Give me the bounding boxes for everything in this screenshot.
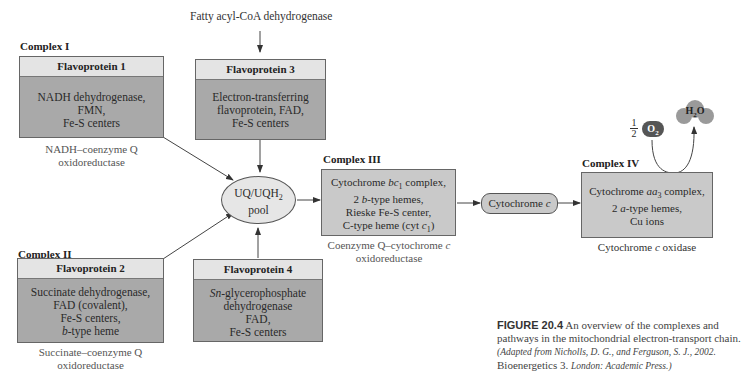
figure-citation: (Adapted from Nicholls, D. G., and Fergu… xyxy=(497,347,716,357)
fraction-den: 2 xyxy=(630,129,638,139)
cytochrome-c: Cytochrome c xyxy=(481,193,558,214)
complex2-box: Flavoprotein 2 Succinate dehydrogenase, … xyxy=(17,258,164,343)
complex4-line: Cu ions xyxy=(582,215,712,228)
flavoprotein4-header: Flavoprotein 4 xyxy=(194,260,322,280)
fp4-line: Fe-S centers xyxy=(194,326,322,339)
complex3-body: Cytochrome bc1 complex, 2 b-type hemes, … xyxy=(322,170,455,236)
arrow-c1-to-pool xyxy=(163,137,233,180)
complex1-line: FMN, xyxy=(20,104,163,117)
oxygen-molecule-icon: O2 xyxy=(642,121,664,137)
complex2-body: Succinate dehydrogenase, FAD (covalent),… xyxy=(18,279,163,338)
fp4-line: Sn-glycerophosphate xyxy=(194,287,322,300)
figure-publisher: London: Academic Press.) xyxy=(571,361,672,371)
complex3-caption: Coenzyme Q–cytochrome c oxidoreductase xyxy=(313,239,465,265)
complex1-caption: NADH–coenzyme Q oxidoreductase xyxy=(19,143,164,169)
flavoprotein2-header: Flavoprotein 2 xyxy=(18,259,163,279)
half-fraction: 1 2 xyxy=(630,118,638,139)
ubiquinone-pool: UQ/UQH2 pool xyxy=(221,176,296,224)
complex4-body: Cytochrome aa3 complex, 2 a-type hemes, … xyxy=(582,173,712,228)
flavoprotein3-box: Flavoprotein 3 Electron-transferring fla… xyxy=(195,59,326,140)
complex3-line: Rieske Fe-S center, xyxy=(322,206,455,219)
figure-caption: FIGURE 20.4 An overview of the complexes… xyxy=(497,319,742,373)
pool-subscript: 2 xyxy=(279,193,283,202)
fp4-line: FAD, xyxy=(194,313,322,326)
flavoprotein3-header: Flavoprotein 3 xyxy=(196,60,325,80)
line-rest: -type heme xyxy=(68,325,119,337)
flavoprotein3-body: Electron-transferring flavoprotein, FAD,… xyxy=(196,80,325,130)
complex4-caption: Cytochrome c oxidase xyxy=(581,241,713,254)
flavoprotein4-box: Flavoprotein 4 Sn-glycerophosphate dehyd… xyxy=(193,259,323,342)
complex2-line: Fe-S centers, xyxy=(18,312,163,325)
caption-line: oxidoreductase xyxy=(313,252,465,265)
complex4-label: Complex IV xyxy=(582,157,639,169)
complex4-line: 2 a-type hemes, xyxy=(582,202,712,215)
pool-text: UQ/UQH xyxy=(234,187,279,199)
fatty-acyl-coa-label: Fatty acyl-CoA dehydrogenase xyxy=(190,10,332,22)
complex3-line: 2 b-type hemes, xyxy=(322,193,455,206)
pool-line1: UQ/UQH2 xyxy=(222,187,295,204)
caption-line: oxidoreductase xyxy=(19,156,164,169)
caption-line: NADH–coenzyme Q xyxy=(19,143,164,156)
figure-book: Bioenergetics 3. xyxy=(497,359,568,371)
line-rest: -glycerophosphate xyxy=(221,287,306,299)
flavoprotein1-header: Flavoprotein 1 xyxy=(20,57,163,77)
complex1-body: NADH dehydrogenase, FMN, Fe-S centers xyxy=(20,77,163,130)
caption-line: oxidoreductase xyxy=(17,359,164,372)
figure-number: FIGURE 20.4 xyxy=(497,319,563,331)
complex3-line: Cytochrome bc1 complex, xyxy=(322,176,455,193)
water-molecule-icon: H2O xyxy=(676,100,714,124)
complex4-line: Cytochrome aa3 complex, xyxy=(582,185,712,202)
complex2-line: FAD (covalent), xyxy=(18,299,163,312)
complex3-label: Complex III xyxy=(323,153,381,165)
complex1-line: NADH dehydrogenase, xyxy=(20,91,163,104)
complex2-line: b-type heme xyxy=(18,325,163,338)
italic-sn: Sn xyxy=(210,287,222,299)
complex1-label: Complex I xyxy=(20,40,69,52)
complex3-line: C-type heme (cyt c1) xyxy=(322,219,455,236)
caption-line: Coenzyme Q–cytochrome c xyxy=(313,239,465,252)
caption-line: Succinate–coenzyme Q xyxy=(17,346,164,359)
fp3-line: Electron-transferring xyxy=(196,91,325,104)
complex1-box: Flavoprotein 1 NADH dehydrogenase, FMN, … xyxy=(19,56,164,138)
pool-line2: pool xyxy=(222,204,295,217)
arrow-c2-to-pool xyxy=(163,213,233,259)
flavoprotein4-body: Sn-glycerophosphate dehydrogenase FAD, F… xyxy=(194,280,322,339)
complex2-line: Succinate dehydrogenase, xyxy=(18,286,163,299)
fp4-line: dehydrogenase xyxy=(194,300,322,313)
complex1-line: Fe-S centers xyxy=(20,117,163,130)
fp3-line: flavoprotein, FAD, xyxy=(196,104,325,117)
fp3-line: Fe-S centers xyxy=(196,117,325,130)
complex3-box: Cytochrome bc1 complex, 2 b-type hemes, … xyxy=(321,169,456,236)
complex4-box: Cytochrome aa3 complex, 2 a-type hemes, … xyxy=(581,172,713,238)
complex2-caption: Succinate–coenzyme Q oxidoreductase xyxy=(17,346,164,372)
